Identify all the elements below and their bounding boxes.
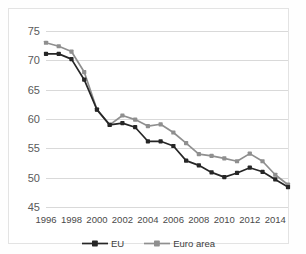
data-point-euro-area-2012 (248, 152, 252, 156)
data-point-eu-2006 (171, 144, 175, 148)
x-tick-label-2010: 2010 (214, 214, 235, 225)
data-point-eu-2010 (222, 175, 226, 179)
plot-area: 45505560657075 1996199820002002200420062… (46, 31, 288, 207)
y-tick-label-60: 60 (28, 113, 40, 125)
data-point-eu-2011 (235, 171, 239, 175)
legend-item-eu[interactable]: EU (82, 234, 124, 252)
data-point-eu-2000 (95, 108, 99, 112)
y-tick-label-45: 45 (28, 201, 40, 213)
data-point-eu-2001 (108, 123, 112, 127)
data-point-eu-1997 (57, 52, 61, 56)
chart-card: 45505560657075 1996199820002002200420062… (0, 0, 306, 254)
y-tick-label-75: 75 (28, 25, 40, 37)
x-tick-label-2000: 2000 (86, 214, 107, 225)
x-tick-label-2006: 2006 (163, 214, 184, 225)
data-point-euro-area-1997 (57, 44, 61, 48)
data-point-euro-area-2003 (133, 117, 137, 121)
data-point-euro-area-2002 (120, 113, 124, 117)
cropped-title-strip (0, 0, 306, 7)
data-point-eu-2002 (120, 121, 124, 125)
y-tick-label-50: 50 (28, 172, 40, 184)
data-point-euro-area-2013 (260, 159, 264, 163)
y-tick-label-65: 65 (28, 84, 40, 96)
data-point-eu-2008 (197, 163, 201, 167)
data-point-euro-area-2009 (209, 154, 213, 158)
legend-key-square-icon (144, 234, 170, 252)
x-tick-label-2014: 2014 (265, 214, 286, 225)
data-point-euro-area-1998 (69, 49, 73, 53)
data-point-euro-area-2008 (197, 152, 201, 156)
chart-frame: 45505560657075 1996199820002002200420062… (8, 8, 289, 244)
legend-item-euro-area[interactable]: Euro area (144, 234, 215, 252)
chart-legend: EUEuro area (9, 234, 288, 252)
data-point-euro-area-2007 (184, 141, 188, 145)
data-point-eu-1999 (82, 78, 86, 82)
legend-key-square-icon (82, 234, 108, 252)
x-tick-label-2008: 2008 (188, 214, 209, 225)
data-point-eu-2013 (260, 170, 264, 174)
x-tick-label-1996: 1996 (35, 214, 56, 225)
data-point-eu-2007 (184, 159, 188, 163)
data-point-euro-area-1996 (44, 41, 48, 45)
data-point-eu-2009 (209, 170, 213, 174)
y-tick-label-70: 70 (28, 54, 40, 66)
data-point-eu-2003 (133, 125, 137, 129)
data-point-euro-area-2005 (159, 122, 163, 126)
gridline-y-45 (46, 207, 288, 208)
data-point-euro-area-2011 (235, 159, 239, 163)
data-point-eu-2005 (159, 139, 163, 143)
data-point-euro-area-2006 (171, 130, 175, 134)
data-point-euro-area-2004 (146, 124, 150, 128)
x-tick-label-2004: 2004 (137, 214, 158, 225)
data-point-eu-2004 (146, 139, 150, 143)
data-point-eu-1998 (69, 57, 73, 61)
data-point-eu-2012 (248, 166, 252, 170)
data-point-euro-area-2014 (273, 173, 277, 177)
x-tick-label-2012: 2012 (239, 214, 260, 225)
data-point-eu-2014 (273, 177, 277, 181)
series-line-euro-area (46, 43, 288, 185)
legend-label: EU (111, 238, 124, 249)
x-tick-label-1998: 1998 (61, 214, 82, 225)
y-tick-label-55: 55 (28, 142, 40, 154)
data-point-euro-area-2010 (222, 156, 226, 160)
legend-label: Euro area (173, 238, 215, 249)
series-layer (46, 31, 288, 207)
data-point-euro-area-1999 (82, 70, 86, 74)
data-point-eu-1996 (44, 52, 48, 56)
data-point-eu-2015 (286, 185, 290, 189)
x-tick-label-2002: 2002 (112, 214, 133, 225)
